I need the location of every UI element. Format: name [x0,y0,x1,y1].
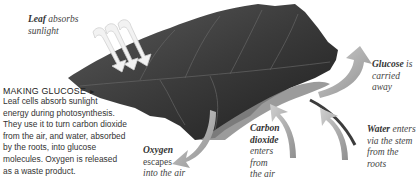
label-water: Water enters via the stem from the roots [367,124,416,170]
water-arrow [320,108,348,160]
label-sunlight-bold: Leaf [28,14,46,24]
triangle-right-icon: ► [89,88,96,95]
label-glucose: Glucose is carried away [372,59,412,94]
label-oxygen: Oxygen escapes into the air [143,145,185,179]
section-heading: MAKING GLUCOSE ► [3,86,183,96]
label-carbon-dioxide: Carbon dioxide enters from the air [250,123,280,179]
label-sunlight: Leaf absorbs sunlight [28,14,78,37]
